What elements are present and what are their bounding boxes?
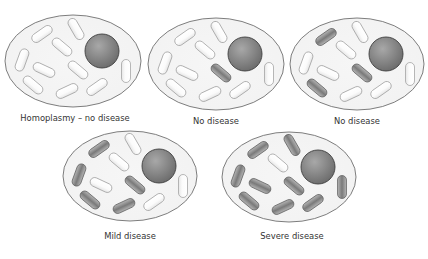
cell-label: Severe disease	[260, 232, 323, 240]
normal-mitochondrion	[179, 175, 188, 198]
nucleus	[228, 37, 262, 71]
cell-2	[148, 18, 284, 110]
nucleus	[301, 150, 335, 184]
cell-label: No disease	[334, 117, 380, 125]
cell-4	[63, 131, 197, 221]
normal-mitochondrion	[406, 63, 415, 86]
nucleus	[369, 37, 403, 71]
cell-label: Mild disease	[104, 232, 156, 240]
heteroplasmy-diagram	[0, 0, 428, 259]
cell-3	[290, 18, 424, 110]
nucleus	[142, 149, 176, 183]
cell-label: Homoplasmy – no disease	[20, 114, 129, 122]
mutant-mitochondrion	[338, 176, 347, 199]
normal-mitochondrion	[265, 63, 274, 86]
cell-1	[5, 15, 141, 107]
cell-label: No disease	[193, 117, 239, 125]
nucleus	[85, 34, 119, 68]
normal-mitochondrion	[122, 60, 131, 83]
cell-5	[222, 132, 356, 222]
